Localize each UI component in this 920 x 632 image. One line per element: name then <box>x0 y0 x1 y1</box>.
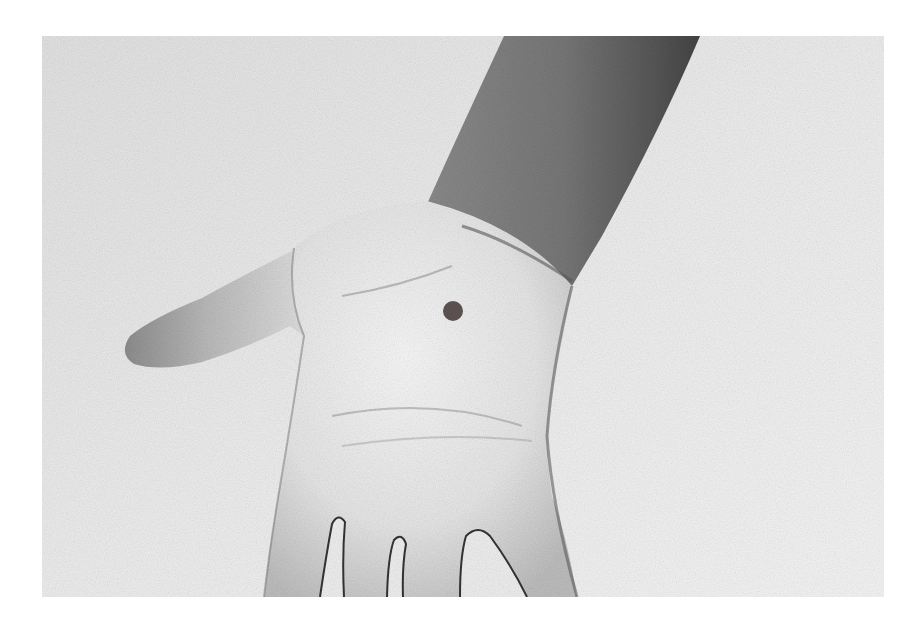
hand-illustration <box>42 36 884 597</box>
palm-marker-dot <box>443 301 463 321</box>
palm <box>264 201 577 597</box>
hand-photo <box>42 36 884 597</box>
